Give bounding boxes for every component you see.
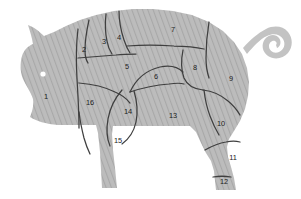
cut-label-14: 14 <box>124 107 132 116</box>
cut-label-2: 2 <box>82 45 86 54</box>
cut-label-16: 16 <box>86 98 94 107</box>
pig-body-shape <box>21 9 249 190</box>
cut-label-13: 13 <box>169 111 177 120</box>
cut-label-5: 5 <box>125 62 129 71</box>
cut-label-3: 3 <box>102 37 106 46</box>
tail-path <box>243 27 292 59</box>
cut-label-15: 15 <box>114 136 122 145</box>
cut-label-11: 11 <box>229 153 236 162</box>
pig-eye <box>40 71 45 76</box>
cut-label-12: 12 <box>220 177 228 186</box>
cut-label-10: 10 <box>217 119 225 128</box>
pig-tail-shape <box>243 27 292 59</box>
cut-label-6: 6 <box>154 72 158 81</box>
pig-diagram-svg: 1 2 3 4 5 6 7 8 9 10 11 12 13 14 15 16 <box>0 0 301 199</box>
cut-label-1: 1 <box>44 92 48 101</box>
cut-label-9: 9 <box>229 74 233 83</box>
cut-label-4: 4 <box>117 33 121 42</box>
cut-label-8: 8 <box>193 63 197 72</box>
pig-outline-path <box>21 9 249 190</box>
cut-label-7: 7 <box>171 25 175 34</box>
pig-cuts-diagram: 1 2 3 4 5 6 7 8 9 10 11 12 13 14 15 16 <box>0 0 301 199</box>
